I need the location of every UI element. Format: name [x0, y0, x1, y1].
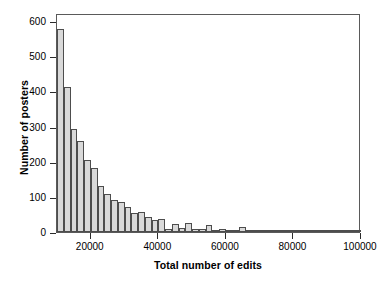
histogram-figure: Number of posters 0100200300400500600 20… — [0, 0, 390, 284]
histogram-bar — [77, 141, 84, 232]
histogram-bar — [71, 129, 78, 232]
x-tick-label: 20000 — [60, 241, 120, 252]
histogram-bar — [341, 230, 348, 232]
histogram-bar — [206, 225, 213, 232]
histogram-bar — [172, 224, 179, 232]
x-tick-mark — [90, 233, 91, 239]
histogram-bar — [253, 230, 260, 232]
histogram-bar — [64, 87, 71, 232]
histogram-bar — [307, 230, 314, 232]
histogram-bar — [320, 230, 327, 232]
histogram-bar — [125, 207, 132, 232]
y-tick-label: 500 — [2, 52, 46, 62]
histogram-bar — [179, 228, 186, 232]
y-tick-label: 300 — [2, 123, 46, 133]
x-tick-mark — [157, 233, 158, 239]
x-tick-label: 80000 — [262, 241, 322, 252]
histogram-bar — [219, 229, 226, 232]
histogram-bar — [158, 219, 165, 232]
histogram-bar — [91, 168, 98, 232]
histogram-bar — [131, 213, 138, 232]
histogram-bar — [233, 230, 240, 232]
histogram-bar — [111, 200, 118, 232]
histogram-bar — [152, 220, 159, 232]
histogram-bar — [226, 230, 233, 232]
x-axis-title: Total number of edits — [56, 259, 360, 271]
histogram-bar — [273, 230, 280, 232]
x-tick-label: 60000 — [195, 241, 255, 252]
histogram-bar — [57, 29, 64, 232]
x-tick-label: 100000 — [330, 241, 390, 252]
histogram-bar — [354, 230, 361, 232]
x-tick-label: 40000 — [127, 241, 187, 252]
y-tick-label: 600 — [2, 17, 46, 27]
plot-area — [56, 14, 360, 233]
y-tick-label: 400 — [2, 87, 46, 97]
histogram-bar — [192, 229, 199, 232]
histogram-bar — [266, 230, 273, 232]
histogram-bar — [334, 230, 341, 232]
y-tick-label: 200 — [2, 158, 46, 168]
y-tick-mark — [50, 233, 56, 234]
histogram-bar — [300, 230, 307, 232]
histogram-bar — [199, 229, 206, 232]
x-tick-mark — [360, 233, 361, 239]
histogram-bar — [145, 217, 152, 232]
histogram-bar — [212, 230, 219, 232]
histogram-bar — [287, 230, 294, 232]
histogram-bar — [280, 230, 287, 232]
histogram-bar — [239, 227, 246, 232]
y-tick-label: 100 — [2, 193, 46, 203]
histogram-bar — [165, 229, 172, 232]
histogram-bar — [260, 230, 267, 232]
y-tick-label: 0 — [2, 228, 46, 238]
x-tick-mark — [225, 233, 226, 239]
histogram-bar — [104, 194, 111, 232]
histogram-bar — [98, 186, 105, 232]
x-tick-mark — [292, 233, 293, 239]
histogram-bar — [293, 230, 300, 232]
histogram-bar — [84, 160, 91, 232]
histogram-bar — [185, 223, 192, 232]
histogram-bar — [118, 202, 125, 232]
bar-series — [57, 15, 359, 232]
histogram-bar — [246, 230, 253, 232]
histogram-bar — [347, 230, 354, 232]
histogram-bar — [138, 212, 145, 232]
histogram-bar — [327, 230, 334, 232]
histogram-bar — [314, 230, 321, 232]
